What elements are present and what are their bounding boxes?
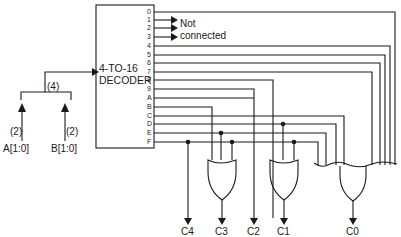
pin-label: 2: [147, 24, 151, 31]
output-c4-label: C4: [181, 227, 194, 237]
junction-dot: [292, 140, 297, 145]
arrow-c2-icon: [250, 218, 258, 225]
junction-dot: [219, 131, 224, 136]
arrow-b-up-icon: [61, 103, 69, 112]
output-D-line: [154, 124, 336, 165]
pin-label: E: [147, 129, 152, 136]
output-E-line: [154, 133, 326, 165]
b-input-label: B[1:0]: [51, 144, 77, 154]
output-9-line: [154, 89, 254, 218]
input-merge-bracket: [21, 92, 71, 100]
arrow-c4-icon: [184, 218, 192, 225]
a-bus-width: (2): [10, 127, 22, 137]
pin-label: 4: [147, 42, 151, 49]
or-gate-c3: [208, 160, 236, 200]
pin-label: 0: [147, 8, 151, 15]
output-c1-label: C1: [277, 227, 290, 237]
arrow-out-2-icon: [171, 24, 178, 32]
arrow-c3-icon: [218, 218, 226, 225]
pin-label: 7: [147, 68, 151, 75]
decoder-title-line2: DECODER: [99, 75, 152, 86]
pin-label: B: [147, 103, 152, 110]
combined-bus-width: (4): [47, 82, 59, 92]
pin-label: 1: [147, 16, 151, 23]
arrow-c1-icon: [280, 218, 288, 225]
pin-label: C: [147, 112, 152, 119]
a-input-label: A[1:0]: [3, 144, 29, 154]
pin-label: A: [147, 94, 152, 101]
not-connected-line2: connected: [180, 31, 226, 41]
decoder-title-line1: 4-TO-16: [99, 63, 138, 74]
pin-label: 9: [147, 85, 151, 92]
output-8-line: [154, 80, 273, 218]
arrow-out-3-icon: [171, 33, 178, 41]
junction-dot: [230, 140, 235, 145]
b-bus-width: (2): [66, 127, 78, 137]
arrow-out-1-icon: [171, 16, 178, 24]
arrow-c0-icon: [349, 218, 357, 225]
or-gate-c0: [340, 166, 366, 201]
output-7-line: [154, 72, 372, 165]
pin-label: 3: [147, 33, 151, 40]
junction-dot: [281, 122, 286, 127]
output-c3-label: C3: [215, 227, 228, 237]
not-connected-line1: Not: [180, 19, 196, 29]
pin-label: D: [147, 120, 152, 127]
output-4-line: [154, 46, 390, 165]
output-c0-label: C0: [346, 227, 359, 237]
pin-label: F: [147, 138, 151, 145]
or-gate-c1: [270, 160, 298, 200]
arrow-a-up-icon: [18, 103, 26, 112]
output-c2-label: C2: [247, 227, 260, 237]
junction-dot: [186, 140, 191, 145]
pin-label: 8: [147, 76, 151, 83]
pin-label: 6: [147, 59, 151, 66]
output-C-line: [154, 116, 344, 165]
pin-label: 5: [147, 51, 151, 58]
